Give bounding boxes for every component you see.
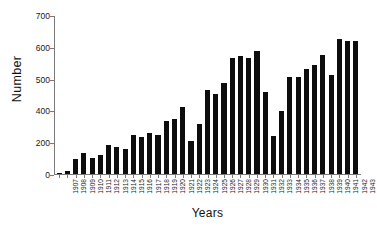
bar <box>106 145 111 174</box>
bar <box>164 121 169 174</box>
bar <box>57 173 62 174</box>
y-axis-tick-label: 0 <box>18 171 50 180</box>
x-axis-tick-mark <box>282 175 283 178</box>
bar <box>205 90 210 174</box>
x-axis-tick-label: 1938 <box>328 179 336 205</box>
bar <box>90 158 95 174</box>
x-axis-tick-mark <box>142 175 143 178</box>
bar <box>296 77 301 174</box>
x-axis-tick-label: 1943 <box>369 179 377 205</box>
x-axis-tick-label: 1924 <box>212 179 220 205</box>
x-axis-tick-label: 1910 <box>97 179 105 205</box>
x-axis-tick-label: 1911 <box>105 179 113 205</box>
x-axis-tick-label: 1917 <box>155 179 163 205</box>
y-axis-tick-label: 600 <box>18 44 50 53</box>
x-axis-tick-mark <box>59 175 60 178</box>
y-axis-tick-mark <box>50 16 54 17</box>
y-axis-tick-labels: 7006005004002000 <box>10 0 50 229</box>
x-axis-tick-mark <box>117 175 118 178</box>
x-axis-tick-mark <box>273 175 274 178</box>
bar <box>221 83 226 174</box>
bar <box>114 147 119 174</box>
x-axis-tick-mark <box>183 175 184 178</box>
bar <box>197 124 202 174</box>
x-axis-tick-mark <box>208 175 209 178</box>
x-axis-tick-label: 1937 <box>319 179 327 205</box>
x-axis-tick-mark <box>100 175 101 178</box>
y-axis-tick-label: 500 <box>18 76 50 85</box>
x-axis-tick-mark <box>199 175 200 178</box>
plot-area <box>54 16 361 175</box>
x-axis-tick-mark <box>249 175 250 178</box>
x-axis-tick-label: 1923 <box>204 179 212 205</box>
bar <box>73 159 78 174</box>
x-axis-tick-mark <box>265 175 266 178</box>
x-axis-tick-label: 1940 <box>344 179 352 205</box>
bar <box>81 153 86 174</box>
bar <box>254 51 259 174</box>
x-axis-tick-mark <box>191 175 192 178</box>
x-axis-tick-label: 1914 <box>130 179 138 205</box>
bar <box>271 136 276 174</box>
bar <box>329 75 334 174</box>
x-axis-tick-mark <box>175 175 176 178</box>
bar <box>320 55 325 174</box>
x-axis-tick-mark <box>216 175 217 178</box>
x-axis-tick-label: 1932 <box>278 179 286 205</box>
x-axis-tick-label: 1916 <box>146 179 154 205</box>
bar <box>213 94 218 174</box>
bar <box>147 133 152 174</box>
y-axis-tick-label: 700 <box>18 12 50 21</box>
y-axis-tick-mark <box>50 48 54 49</box>
x-axis-tick-mark <box>290 175 291 178</box>
bar <box>188 141 193 174</box>
x-axis-tick-mark <box>240 175 241 178</box>
bar <box>230 58 235 174</box>
x-axis-tick-label: 1935 <box>303 179 311 205</box>
x-axis-tick-mark <box>76 175 77 178</box>
x-axis-tick-label: 1913 <box>122 179 130 205</box>
x-axis-tick-mark <box>339 175 340 178</box>
y-axis-tick-mark <box>50 111 54 112</box>
x-axis-tick-mark <box>257 175 258 178</box>
x-axis-tick-label: 1930 <box>262 179 270 205</box>
bar <box>246 58 251 174</box>
bar <box>123 149 128 174</box>
x-axis-tick-label: 1931 <box>270 179 278 205</box>
bar <box>337 39 342 174</box>
x-axis-tick-mark <box>323 175 324 178</box>
y-axis-tick-mark <box>50 80 54 81</box>
bar <box>172 119 177 174</box>
bar <box>353 41 358 174</box>
x-axis-tick-mark <box>232 175 233 178</box>
x-axis-tick-mark <box>356 175 357 178</box>
x-axis-tick-label: 1909 <box>89 179 97 205</box>
x-axis-tick-label: 1918 <box>163 179 171 205</box>
x-axis-tick-label: 1936 <box>311 179 319 205</box>
bar <box>312 65 317 174</box>
x-axis-tick-label: 1915 <box>138 179 146 205</box>
bar <box>155 135 160 175</box>
x-axis-tick-labels: 1907190819091910191119121913191419151916… <box>55 179 361 205</box>
x-axis-tick-label: 1934 <box>295 179 303 205</box>
x-axis-tick-label: 1921 <box>188 179 196 205</box>
bar <box>139 137 144 174</box>
bars-layer <box>55 16 361 174</box>
x-axis-tick-mark <box>150 175 151 178</box>
x-axis-tick-label: 1908 <box>80 179 88 205</box>
x-axis-tick-mark <box>109 175 110 178</box>
bar <box>345 41 350 174</box>
x-axis-tick-label: 1942 <box>361 179 369 205</box>
bar <box>98 155 103 174</box>
x-axis-tick-label: 1907 <box>72 179 80 205</box>
y-axis-tick-label: 400 <box>18 107 50 116</box>
x-axis-tick-mark <box>348 175 349 178</box>
bar <box>279 111 284 174</box>
bar <box>304 69 309 174</box>
x-axis-tick-label: 1919 <box>171 179 179 205</box>
bar <box>287 77 292 175</box>
x-axis-tick-mark <box>84 175 85 178</box>
x-axis-tick-label: 1941 <box>352 179 360 205</box>
x-axis-tick-label: 1920 <box>179 179 187 205</box>
